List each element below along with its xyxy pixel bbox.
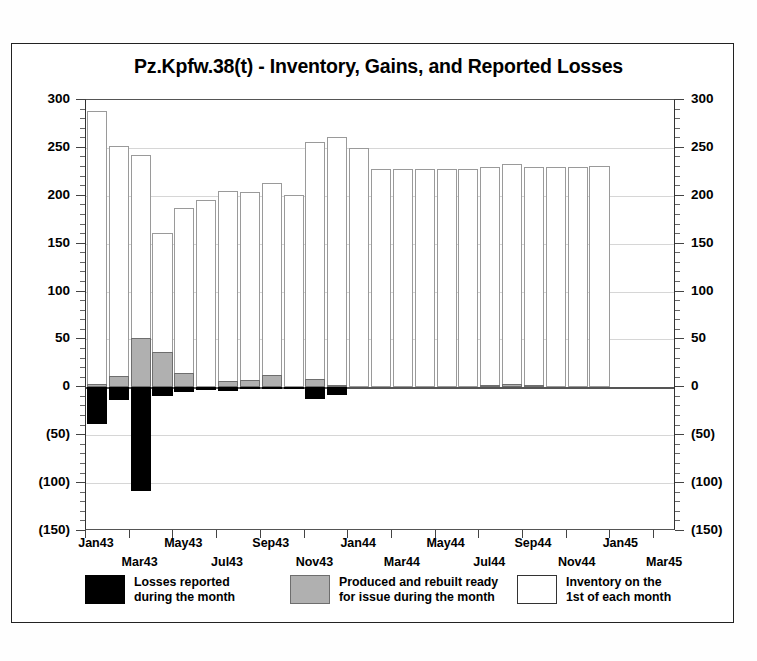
- production-bar: [109, 376, 129, 387]
- bar-group: [284, 100, 304, 529]
- y-tick-minor-left: [80, 492, 85, 493]
- x-tick: [653, 530, 654, 538]
- bar-group: [152, 100, 172, 529]
- inventory-bar: [262, 183, 282, 387]
- y-tick-minor-left: [80, 300, 85, 301]
- y-tick-right: [675, 338, 684, 339]
- y-tick-minor-left: [80, 204, 85, 205]
- bar-group: [524, 100, 544, 529]
- y-tick-minor-right: [675, 405, 680, 406]
- y-axis-label-right: 250: [691, 139, 751, 154]
- chart-legend: Losses reported during the monthProduced…: [85, 575, 685, 615]
- y-tick-left: [76, 195, 85, 196]
- y-axis-label-left: (150): [15, 522, 70, 537]
- y-tick-minor-right: [675, 501, 680, 502]
- y-tick-minor-left: [80, 252, 85, 253]
- y-tick-minor-right: [675, 453, 680, 454]
- inventory-bar: [589, 166, 609, 387]
- y-axis-label-left: 150: [15, 235, 70, 250]
- y-tick-left: [76, 386, 85, 387]
- y-tick-minor-left: [80, 358, 85, 359]
- y-tick-minor-left: [80, 156, 85, 157]
- bar-group: [502, 100, 522, 529]
- bar-group: [174, 100, 194, 529]
- x-axis-label: Mar43: [122, 555, 158, 569]
- bar-group: [327, 100, 347, 529]
- y-tick-minor-right: [675, 377, 680, 378]
- y-axis-label-right: 200: [691, 187, 751, 202]
- x-tick: [566, 530, 567, 538]
- loss-bar: [109, 387, 129, 399]
- y-tick-minor-right: [675, 425, 680, 426]
- y-axis-label-left: 250: [15, 139, 70, 154]
- y-tick-right: [675, 99, 684, 100]
- chart-title: Pz.Kpfw.38(t) - Inventory, Gains, and Re…: [0, 55, 757, 78]
- x-axis-label: May44: [426, 536, 464, 550]
- y-tick-right: [675, 195, 684, 196]
- production-bar: [262, 375, 282, 387]
- loss-bar: [152, 387, 172, 396]
- y-tick-minor-left: [80, 415, 85, 416]
- inventory-bar: [458, 169, 478, 387]
- y-axis-label-left: 300: [15, 91, 70, 106]
- inventory-bar: [524, 167, 544, 387]
- y-tick-minor-right: [675, 396, 680, 397]
- x-axis-label: Jan44: [340, 536, 375, 550]
- bar-group: [589, 100, 609, 529]
- inventory-bar: [349, 148, 369, 387]
- inventory-bar: [327, 137, 347, 387]
- y-tick-right: [675, 243, 684, 244]
- inventory-bar: [371, 169, 391, 387]
- y-axis-label-right: (150): [691, 522, 751, 537]
- y-tick-left: [76, 147, 85, 148]
- y-tick-minor-left: [80, 214, 85, 215]
- y-axis-label-right: 150: [691, 235, 751, 250]
- loss-bar: [262, 387, 282, 389]
- y-axis-label-right: 300: [691, 91, 751, 106]
- y-tick-minor-left: [80, 109, 85, 110]
- inventory-bar: [284, 195, 304, 388]
- production-bar: [502, 384, 522, 387]
- y-tick-minor-right: [675, 271, 680, 272]
- y-tick-minor-right: [675, 492, 680, 493]
- bar-group: [458, 100, 478, 529]
- y-axis-label-left: 50: [15, 330, 70, 345]
- y-tick-minor-left: [80, 367, 85, 368]
- legend-swatch-white: [517, 575, 557, 604]
- y-tick-right: [675, 147, 684, 148]
- inventory-bar: [87, 111, 107, 387]
- y-tick-minor-right: [675, 367, 680, 368]
- production-bar: [305, 379, 325, 388]
- y-tick-minor-left: [80, 137, 85, 138]
- production-bar: [524, 385, 544, 387]
- y-tick-minor-left: [80, 453, 85, 454]
- y-tick-minor-left: [80, 233, 85, 234]
- inventory-bar: [393, 169, 413, 387]
- y-axis-label-left: (50): [15, 426, 70, 441]
- x-axis-label: Mar45: [646, 555, 682, 569]
- bar-group: [611, 100, 631, 529]
- y-tick-left: [76, 243, 85, 244]
- inventory-bar: [305, 142, 325, 387]
- y-axis-label-right: 50: [691, 330, 751, 345]
- y-tick-minor-right: [675, 329, 680, 330]
- loss-bar: [131, 387, 151, 490]
- y-tick-minor-right: [675, 156, 680, 157]
- x-axis-label: May43: [164, 536, 202, 550]
- y-tick-minor-left: [80, 310, 85, 311]
- y-tick-minor-left: [80, 118, 85, 119]
- production-bar: [152, 352, 172, 387]
- y-axis-label-right: 0: [691, 378, 751, 393]
- y-tick-left: [76, 482, 85, 483]
- x-axis-label: Sep44: [515, 536, 552, 550]
- bar-group: [415, 100, 435, 529]
- production-bar: [174, 373, 194, 387]
- y-tick-minor-right: [675, 185, 680, 186]
- y-tick-minor-right: [675, 473, 680, 474]
- y-tick-minor-right: [675, 109, 680, 110]
- inventory-bar: [502, 164, 522, 387]
- inventory-bar: [174, 208, 194, 387]
- x-axis-label: Mar44: [384, 555, 420, 569]
- loss-bar: [284, 387, 304, 389]
- bar-group: [633, 100, 653, 529]
